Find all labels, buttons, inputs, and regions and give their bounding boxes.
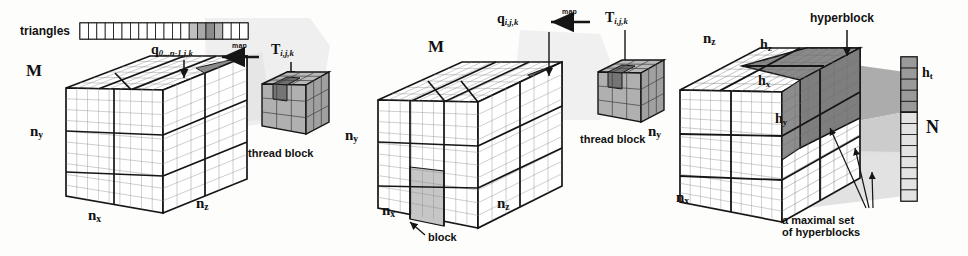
left-axis-ny-sub: y [38,129,43,140]
middle-panel-graphics [378,22,664,235]
left-main-cube [66,56,247,213]
strip-cell [164,23,172,39]
mid-block-pointer [410,222,425,235]
mid-axis-ny: ny [345,128,358,144]
left-t-label: Ti,j,k [271,43,294,57]
mid-q-base: q [497,11,505,26]
n-column-cell [901,179,917,190]
triangles-label: triangles [20,25,70,37]
strip-cell [147,23,155,39]
left-q-label: q0...n-1,j,k [151,43,193,57]
left-axis-nz-sub: z [204,201,208,212]
mid-axis-nz-sub: z [505,201,509,212]
strip-cell [231,23,239,39]
left-t-base: T [271,42,280,57]
left-axis-ny: ny [30,124,43,140]
left-axis-nx: nx [88,208,101,224]
strip-cell [206,23,214,39]
middle-main-cube [378,62,562,228]
mid-t-base: T [605,10,614,25]
strip-cell [240,23,248,39]
middle-thread-block-cube [598,60,664,122]
left-axis-nx-sub: x [96,213,101,224]
strip-cell [97,23,105,39]
mid-q-label: qi,j,k [497,12,518,26]
mid-axis-m: M [428,38,444,55]
left-map-tag: map [232,42,247,49]
n-column-cell [901,57,917,68]
n-column-cell [901,168,917,179]
mid-axis-nx: nx [382,203,395,219]
right-axis-nz: nz [703,31,716,47]
maximal-set-label: a maximal set of hyperblocks [782,214,860,239]
maximal-set-line-1: a maximal set [782,214,854,226]
right-ht-label: ht [922,66,933,81]
n-column-cell [901,68,917,79]
strip-cell [88,23,96,39]
triangles-strip [80,23,248,39]
maximal-set-line-2: of hyperblocks [782,226,860,238]
right-axis-nx-sub: x [684,195,689,206]
hyperblock-label: hyperblock [810,12,874,24]
strip-cell [172,23,180,39]
strip-cell [139,23,147,39]
right-ht-sub: t [930,71,933,81]
mid-q-sub: i,j,k [505,17,519,27]
left-q-sub: 0...n-1,j,k [159,48,193,58]
n-column-cell [901,79,917,90]
strip-cell [130,23,138,39]
n-column-cell [901,90,917,101]
strip-cell [105,23,113,39]
strip-cell [198,23,206,39]
right-hy-base: h [775,111,783,126]
mid-map-tag: map [562,8,577,15]
left-q-base: q [151,42,159,57]
strip-cell [80,23,88,39]
n-column [901,57,917,201]
mid-axis-nz: nz [497,196,510,212]
n-column-cell [901,157,917,168]
right-hx-base: h [758,73,766,88]
strip-cell [223,23,231,39]
right-hz-label: hz [760,38,772,53]
right-axis-nz-sub: z [711,36,715,47]
right-axis-nx: nx [676,190,689,206]
strip-cell [114,23,122,39]
n-column-cell [901,190,917,201]
mid-t-sub: i,j,k [614,16,628,26]
strip-cell [156,23,164,39]
right-n-label: N [926,118,939,136]
left-t-sub: i,j,k [280,48,294,58]
mid-thread-block-label: thread block [580,134,645,145]
left-thread-block-cube [262,72,329,134]
right-hy-label: hy [775,112,787,127]
mid-axis-nx-sub: x [390,208,395,219]
strip-cell [122,23,130,39]
left-axis-nz: nz [196,196,209,212]
right-axis-ny: ny [648,124,661,140]
strip-cell [189,23,197,39]
right-ht-base: h [922,65,930,80]
right-hz-base: h [760,37,768,52]
n-column-cell [901,146,917,157]
mid-t-label: Ti,j,k [605,11,628,25]
mid-axis-ny-sub: y [353,133,358,144]
right-hz-sub: z [768,43,772,53]
strip-cell [214,23,222,39]
n-column-cell [901,112,917,123]
right-hx-label: hx [758,74,770,89]
left-thread-block-label: thread block [248,148,313,159]
right-hx-sub: x [766,79,770,89]
right-axis-ny-sub: y [656,129,661,140]
n-column-cell [901,123,917,134]
right-hy-sub: y [783,117,787,127]
mid-block-label: block [428,232,457,243]
figure-container: triangles q0...n-1,j,k map Ti,j,k M ny n… [0,0,968,256]
strip-cell [181,23,189,39]
n-column-cell [901,135,917,146]
n-column-cell [901,101,917,112]
right-panel-graphics [680,30,917,222]
left-axis-m: M [26,62,42,79]
